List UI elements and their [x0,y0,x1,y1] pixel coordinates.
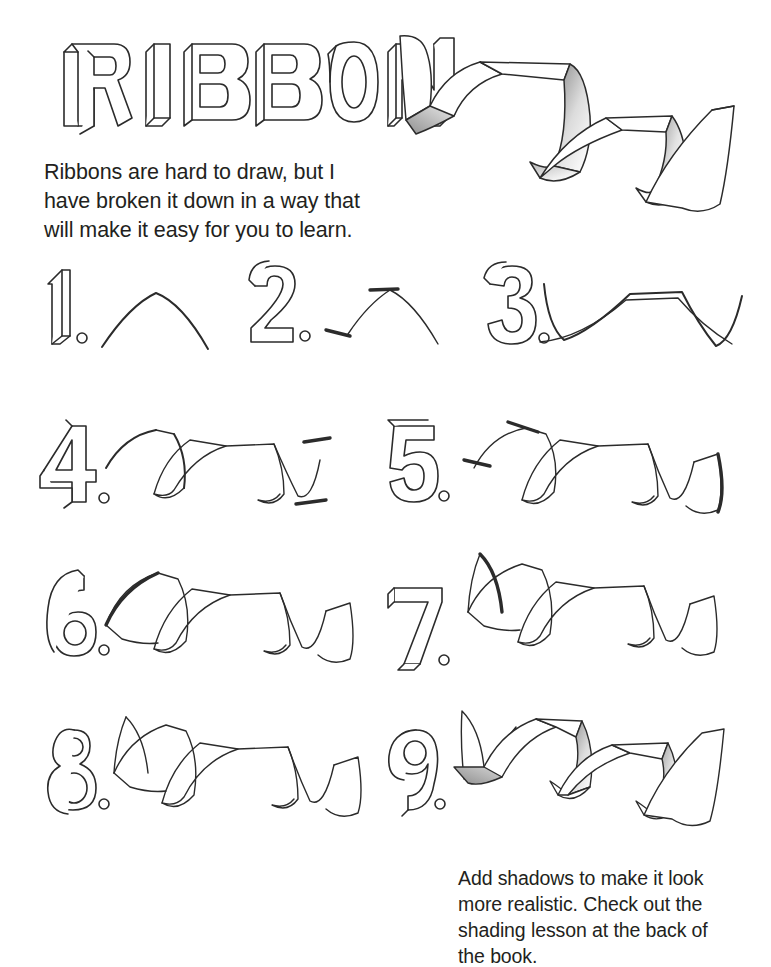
step-number-2 [243,258,315,354]
step-drawing-2 [320,272,470,352]
closing-caption: Add shadows to make it look more realist… [458,865,758,967]
step-drawing-3 [530,268,755,358]
intro-paragraph: Ribbons are hard to draw, but I have bro… [44,158,392,245]
step-number-5 [380,418,454,514]
step-drawing-4 [98,420,348,520]
step-drawing-5 [450,418,750,524]
page-title [42,22,362,134]
step-drawing-6 [100,565,360,673]
step-drawing-1 [96,275,226,355]
hero-ribbon-illustration [382,20,754,220]
step-drawing-7 [450,550,750,676]
step-drawing-9 [440,705,750,831]
step-drawing-8 [100,715,370,831]
step-number-7 [386,580,458,676]
